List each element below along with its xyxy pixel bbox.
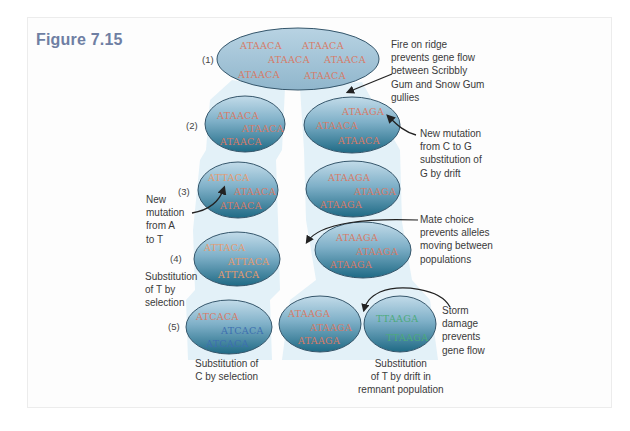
allele-seq: ATAACA (234, 186, 276, 197)
allele-seq: ATCACA (206, 338, 249, 349)
allele-seq: ATAAGA (320, 199, 362, 210)
annotation-storm: Storm damage prevents gene flow (442, 304, 485, 357)
allele-seq: ATTACA (218, 269, 259, 280)
diagram-canvas (0, 0, 630, 431)
allele-seq: ATAAGA (336, 232, 378, 243)
allele-seq: ATAAGA (330, 259, 372, 270)
allele-seq: ATAAGA (328, 172, 370, 183)
allele-seq: ATAAGA (356, 246, 398, 257)
allele-seq: ATCACA (196, 311, 239, 322)
allele-seq: ATAAGA (310, 322, 352, 333)
allele-seq: ATTACA (228, 256, 269, 267)
allele-seq: ATAACA (324, 54, 366, 65)
allele-seq: ATAAGA (288, 308, 330, 319)
allele-seq: ATAACA (238, 69, 280, 80)
annotation-substitution-t-selection: Substitution of T by selection (145, 270, 197, 310)
allele-seq: ATAAGA (354, 186, 396, 197)
generation-label-2: (2) (186, 120, 198, 131)
allele-seq: ATAACA (220, 136, 262, 147)
allele-seq: TTAAGA (376, 313, 418, 324)
allele-seq: ATCACA (221, 325, 264, 336)
allele-seq: ATAACA (268, 54, 310, 65)
allele-seq: ATAACA (220, 200, 262, 211)
annotation-fire: Fire on ridge prevents gene flow between… (391, 38, 484, 104)
allele-seq: ATAACA (240, 40, 282, 51)
generation-label-4: (4) (170, 253, 182, 264)
annotation-mate-choice: Mate choice prevents alleles moving betw… (420, 213, 493, 266)
allele-seq: ATAACA (242, 123, 284, 134)
allele-seq: ATAACA (302, 40, 344, 51)
annotation-mutation-a-to-t: New mutation from A to T (146, 193, 184, 246)
allele-seq: ATTACA (204, 242, 245, 253)
annotation-mutation-c-to-g: New mutation from C to G substitution of… (420, 127, 482, 180)
allele-seq: ATAACA (217, 110, 259, 121)
generation-label-1: (1) (202, 54, 214, 65)
allele-seq: ATAACA (338, 135, 380, 146)
generation-label-5: (5) (168, 321, 180, 332)
annotation-substitution-c-selection: Substitution of C by selection (195, 357, 258, 383)
allele-seq: ATAAGA (298, 335, 340, 346)
allele-seq: ATAAGA (342, 106, 384, 117)
ellipse-gen5-right (364, 296, 436, 352)
allele-seq: ATAACA (304, 70, 346, 81)
allele-seq: ATAACA (316, 120, 358, 131)
annotation-substitution-t-drift: Substitution of T by drift in remnant po… (358, 357, 444, 397)
allele-seq: TTAAGA (386, 332, 428, 343)
allele-seq: ATTACA (208, 172, 249, 183)
